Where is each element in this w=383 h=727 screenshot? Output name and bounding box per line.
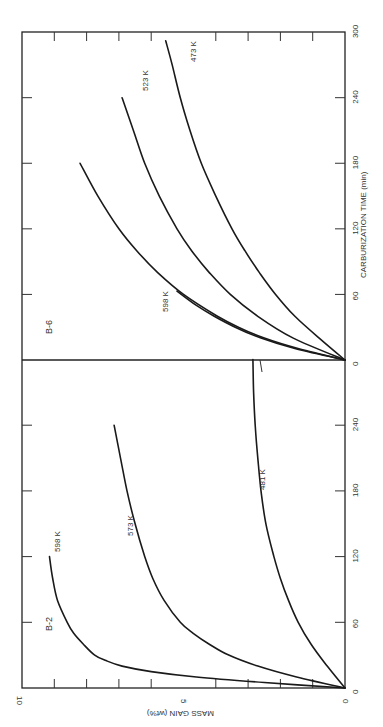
- time-tick-label: 120: [351, 549, 360, 563]
- data-curves: [50, 41, 346, 688]
- panel-label-b6: B-6: [44, 320, 54, 334]
- time-tick-label: 240: [351, 417, 360, 431]
- curve-label-b6-598k: 598 K: [161, 290, 170, 312]
- time-tick-label: 240: [351, 90, 360, 104]
- x-axis-label: CARBURIZATION TIME (min): [359, 171, 368, 278]
- time-tick-label: 60: [351, 619, 360, 628]
- time-tick-labels: 060120180240060120180240300: [351, 24, 360, 694]
- carburization-chart: 0 5 10 MASS GAIN (wt%) 06012018024006012…: [0, 0, 383, 727]
- curve-b-6-523k: [122, 98, 345, 360]
- curve-b-2-573k: [114, 425, 345, 688]
- curve-b-6-473k: [166, 41, 345, 360]
- curve-b-2-481k: [253, 360, 345, 689]
- mass-tick-10: 10: [15, 696, 24, 705]
- curve-label-b2-598k: 598 K: [53, 530, 62, 552]
- time-tick-label: 0: [351, 361, 360, 366]
- time-tick-label: 60: [351, 291, 360, 300]
- curve-label-b2-573k: 573 K: [126, 514, 135, 536]
- mass-tick-5: 5: [179, 699, 188, 704]
- time-tick-label: 180: [351, 155, 360, 169]
- curve-label-b6-473k: 473 K: [189, 40, 198, 62]
- curve-label-b2-481k: 481 K: [258, 468, 267, 490]
- divider-stub: [260, 360, 262, 372]
- y-axis-label: MASS GAIN (wt%): [147, 709, 214, 718]
- time-tick-label: 0: [351, 689, 360, 694]
- curve-b-6-unlabeled: [80, 163, 345, 360]
- panel-label-b2: B-2: [44, 617, 54, 631]
- curve-label-b6-523k: 523 K: [141, 69, 150, 91]
- time-tick-label: 300: [351, 24, 360, 38]
- mass-tick-0: 0: [341, 699, 350, 704]
- time-tick-label: 180: [351, 483, 360, 497]
- curve-b-2-598k: [50, 557, 346, 688]
